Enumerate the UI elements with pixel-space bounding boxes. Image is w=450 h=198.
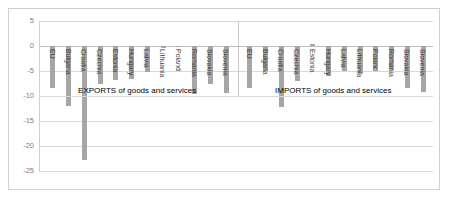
gridline xyxy=(39,121,433,122)
category-label: Estonia xyxy=(309,49,316,72)
category-label: Croatia xyxy=(277,49,284,72)
exports-group-label: EXPORTS of goods and services xyxy=(78,87,196,95)
y-axis-tick-label: 0 xyxy=(30,42,34,50)
category-label: Hungary xyxy=(325,49,332,75)
bar[interactable] xyxy=(161,46,166,48)
category-label: EU xyxy=(246,49,253,59)
y-axis-tick-label: -5 xyxy=(27,67,34,75)
category-label: Lithuania xyxy=(356,49,363,77)
category-label: Hungary xyxy=(128,49,135,75)
y-axis-tick-label: 5 xyxy=(30,17,34,25)
category-label: Slovakia xyxy=(403,49,410,75)
gridline xyxy=(39,146,433,147)
y-axis-tick-label: -20 xyxy=(23,142,34,150)
group-divider xyxy=(238,21,239,96)
category-label: Slovakia xyxy=(206,49,213,75)
category-label: Czechia xyxy=(96,49,103,74)
category-label: Latvia xyxy=(143,49,150,68)
gridline xyxy=(39,96,433,97)
y-axis-tick-label: -15 xyxy=(23,117,34,125)
y-axis-tick-label: -25 xyxy=(23,167,34,175)
gridline xyxy=(39,171,433,172)
category-label: Poland xyxy=(372,49,379,71)
category-label: EU xyxy=(49,49,56,59)
category-label: Bulgaria xyxy=(262,49,269,75)
bar[interactable] xyxy=(310,44,315,46)
chart-frame: 50-5-10-15-20-25EUBulgariaCroatiaCzechia… xyxy=(8,8,440,190)
category-label: Croatia xyxy=(80,49,87,72)
bar[interactable] xyxy=(176,46,181,47)
imports-group-label: IMPORTS of goods and services xyxy=(275,87,391,95)
gridline xyxy=(39,21,433,22)
category-label: Slovenia xyxy=(419,49,426,76)
category-label: Bulgaria xyxy=(65,49,72,75)
category-label: Latvia xyxy=(340,49,347,68)
category-label: Poland xyxy=(175,49,182,71)
category-label: Estonia xyxy=(112,49,119,72)
category-label: Romania xyxy=(191,49,198,77)
category-label: Lithuania xyxy=(159,49,166,77)
plot-area: 50-5-10-15-20-25EUBulgariaCroatiaCzechia… xyxy=(39,21,433,171)
category-label: Slovenia xyxy=(222,49,229,76)
category-label: Romania xyxy=(388,49,395,77)
category-label: Czechia xyxy=(293,49,300,74)
y-axis-tick-label: -10 xyxy=(23,92,34,100)
